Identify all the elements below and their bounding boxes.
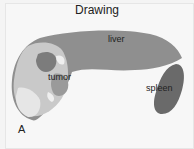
label-tumor: tumor [48,72,71,82]
label-spleen: spleen [146,83,173,93]
diagram-title: Drawing [0,3,194,17]
anatomy-drawing [0,0,194,149]
panel-letter: A [18,123,25,135]
label-liver: liver [108,34,125,44]
